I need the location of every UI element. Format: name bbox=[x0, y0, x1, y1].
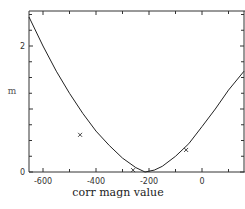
x-axis-tick-labels: -600-400-2000 bbox=[34, 177, 205, 186]
data-point-x-marker bbox=[184, 148, 188, 152]
fitted-curve-line bbox=[29, 17, 244, 172]
chart: -600-400-2000 02 corr magn value m bbox=[0, 0, 245, 209]
y-tick-label: 0 bbox=[20, 168, 25, 177]
plot-frame bbox=[29, 11, 245, 172]
y-tick-label: 2 bbox=[20, 42, 25, 51]
x-tick-label: -400 bbox=[87, 177, 105, 186]
y-axis-tick-labels: 02 bbox=[20, 42, 25, 177]
x-axis-ticks bbox=[43, 11, 229, 172]
x-tick-label: 0 bbox=[199, 177, 204, 186]
data-point-x-marker bbox=[78, 133, 82, 137]
x-axis-title: corr magn value bbox=[72, 186, 163, 199]
x-tick-label: -600 bbox=[34, 177, 52, 186]
y-axis-title: m bbox=[8, 86, 17, 96]
y-axis-ticks bbox=[29, 15, 244, 173]
x-tick-label: -200 bbox=[140, 177, 158, 186]
